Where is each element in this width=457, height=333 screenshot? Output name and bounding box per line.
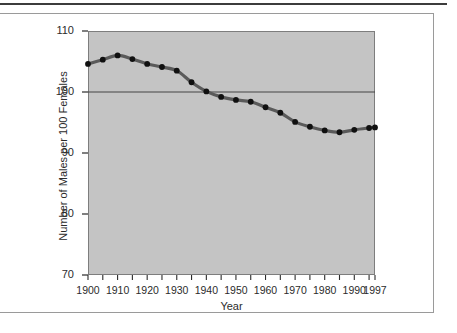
x-tick-label: 1997 (358, 284, 392, 296)
x-axis-ticks (88, 275, 375, 280)
data-line (88, 55, 375, 132)
y-axis-title: Number of Males per 100 Females (57, 41, 69, 271)
data-point-markers (85, 53, 378, 136)
sex-ratio-line-chart: 708090100110 190019101920193019401950196… (0, 0, 457, 333)
y-axis-ticks (82, 31, 88, 275)
x-axis-title: Year (88, 300, 375, 312)
y-tick-label: 110 (48, 24, 74, 36)
